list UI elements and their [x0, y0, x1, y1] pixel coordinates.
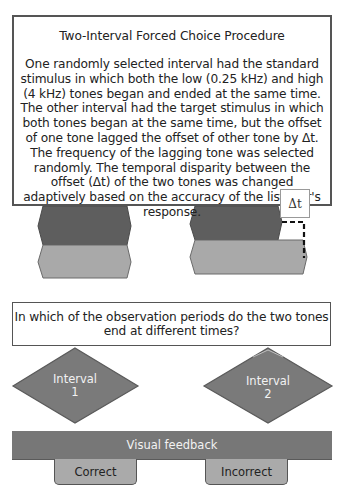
interval-1-label[interactable]: Interval 1 [45, 373, 105, 399]
procedure-description-box: Two-Interval Forced Choice Procedure One… [12, 15, 332, 206]
delta-t-label: Δt [280, 189, 310, 218]
interval-2-label[interactable]: Interval 2 [238, 375, 298, 401]
procedure-description: One randomly selected interval had the s… [20, 57, 324, 220]
target-low-tone [190, 240, 307, 274]
interval-1-label-line2: 1 [45, 386, 105, 399]
standard-low-tone [38, 245, 131, 278]
procedure-title: Two-Interval Forced Choice Procedure [14, 29, 330, 43]
interval-2-label-line2: 2 [238, 388, 298, 401]
